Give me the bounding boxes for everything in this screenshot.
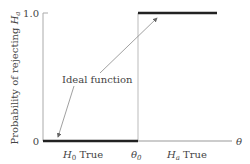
y-axis-label: Probability of rejecting Ha: [9, 11, 22, 144]
theta0-label: θ0: [131, 149, 142, 162]
y-tick-label-1: 1.0: [23, 8, 39, 19]
annotation-arrow-high: [100, 18, 157, 73]
y-tick-label-0: 0: [33, 136, 39, 147]
x-axis-label: θ: [236, 136, 242, 147]
h0-true-label: H0 True: [62, 149, 103, 162]
ideal-function-chart: 1.0 0 Probability of rejecting Ha Ideal …: [0, 0, 250, 164]
annotation-arrow-low: [58, 86, 74, 137]
ha-true-label: Ha True: [166, 149, 207, 162]
ideal-function-label: Ideal function: [62, 74, 133, 85]
